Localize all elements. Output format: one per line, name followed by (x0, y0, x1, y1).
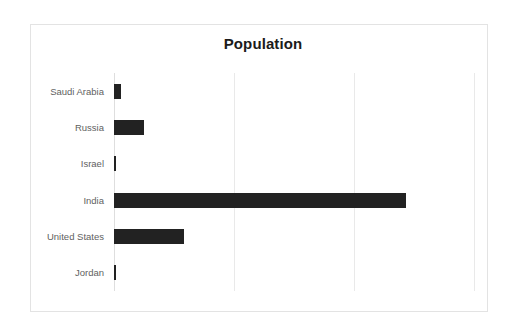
gridline-3 (474, 73, 475, 291)
bar-jordan[interactable] (114, 265, 116, 280)
y-label-united-states: United States (31, 218, 109, 254)
bar-united-states[interactable] (114, 229, 184, 244)
bar-row (114, 182, 474, 218)
bar-israel[interactable] (114, 156, 116, 171)
chart-title-text: Population (224, 35, 303, 52)
bar-russia[interactable] (114, 120, 144, 135)
y-label-israel: Israel (31, 146, 109, 182)
chart-title: Population (31, 35, 487, 52)
bar-series (114, 73, 474, 291)
y-label-saudi-arabia: Saudi Arabia (31, 73, 109, 109)
bar-row (114, 73, 474, 109)
bar-row (114, 255, 474, 291)
y-label-india: India (31, 182, 109, 218)
chart-frame: Population Saudi ArabiaRussiaIsraelIndia… (30, 24, 488, 312)
bar-row (114, 109, 474, 145)
plot-area (114, 73, 474, 291)
bar-saudi-arabia[interactable] (114, 84, 121, 99)
bar-row (114, 146, 474, 182)
y-label-russia: Russia (31, 109, 109, 145)
y-label-jordan: Jordan (31, 255, 109, 291)
bar-india[interactable] (114, 193, 406, 208)
y-axis-category-labels: Saudi ArabiaRussiaIsraelIndiaUnited Stat… (31, 73, 109, 291)
bar-row (114, 218, 474, 254)
